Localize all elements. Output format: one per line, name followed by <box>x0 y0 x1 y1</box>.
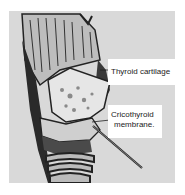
label-line-2: membrane. <box>111 120 159 130</box>
label-line-1: Cricothyroid <box>111 110 159 120</box>
illustration-frame <box>9 11 175 183</box>
label-text: Thyroid cartilage <box>111 67 170 77</box>
thyroid-cartilage-label: Thyroid cartilage <box>108 59 180 85</box>
larynx-illustration <box>9 11 175 183</box>
cricothyroid-membrane-label: Cricothyroid membrane. <box>108 105 162 138</box>
